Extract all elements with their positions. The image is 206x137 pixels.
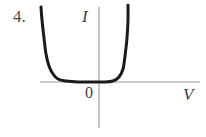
item-number-label: 4.: [13, 8, 26, 25]
x-axis-label: V: [183, 86, 193, 103]
y-axis-label: I: [82, 8, 88, 25]
iv-characteristic-figure: 4. I V 0: [0, 0, 206, 137]
origin-label: 0: [85, 85, 93, 101]
plot-canvas: [0, 0, 206, 137]
